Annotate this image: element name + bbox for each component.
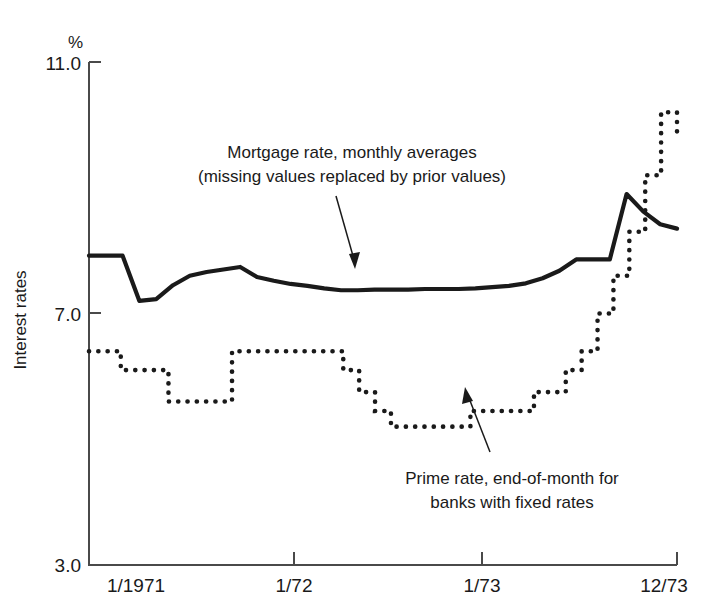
prime-annotation-line-1: Prime rate, end-of-month for xyxy=(405,469,619,488)
axis-lines xyxy=(89,62,677,565)
x-tick-label-1-73: 1/73 xyxy=(464,575,501,596)
prime-annotation-line-2: banks with fixed rates xyxy=(430,493,593,512)
prime-leader-line xyxy=(467,393,490,452)
mortgage-rate-series xyxy=(89,194,677,301)
chart-canvas: % Interest rates 11.0 7.0 3.0 1/1971 1/7… xyxy=(0,0,710,606)
mortgage-leader-arrowhead xyxy=(349,252,360,269)
prime-leader-arrowhead xyxy=(462,387,473,404)
y-tick-label-11: 11.0 xyxy=(45,53,81,74)
mortgage-leader-line xyxy=(336,196,355,263)
x-tick-label-1-1971: 1/1971 xyxy=(107,575,165,596)
y-axis-unit-label: % xyxy=(68,33,83,52)
interest-rates-figure: % Interest rates 11.0 7.0 3.0 1/1971 1/7… xyxy=(0,0,710,606)
x-tick-label-1-72: 1/72 xyxy=(276,575,313,596)
y-tick-label-3: 3.0 xyxy=(55,555,81,576)
y-axis-title: Interest rates xyxy=(11,270,30,369)
y-tick-label-7: 7.0 xyxy=(55,304,81,325)
mortgage-annotation-line-1: Mortgage rate, monthly averages xyxy=(227,143,476,162)
x-tick-label-12-73: 12/73 xyxy=(640,575,688,596)
mortgage-annotation-line-2: (missing values replaced by prior values… xyxy=(198,167,506,186)
